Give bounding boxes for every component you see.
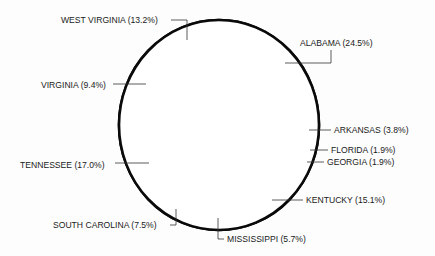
slice-label-florida: FLORIDA (1.9%) <box>331 145 396 155</box>
slice-label-virginia: VIRGINIA (9.4%) <box>41 80 106 90</box>
slice-label-arkansas: ARKANSAS (3.8%) <box>334 125 409 135</box>
slice-label-kentucky: KENTUCKY (15.1%) <box>306 195 385 205</box>
slice-label-south-carolina: SOUTH CAROLINA (7.5%) <box>53 220 157 230</box>
slice-label-georgia: GEORGIA (1.9%) <box>327 157 394 167</box>
slice-label-mississippi: MISSISSIPPI (5.7%) <box>227 234 306 244</box>
slice-label-alabama: ALABAMA (24.5%) <box>300 38 373 48</box>
slice-label-tennessee: TENNESSEE (17.0%) <box>20 160 105 170</box>
pie-chart: ALABAMA (24.5%) ARKANSAS (3.8%) FLORIDA … <box>0 0 435 256</box>
slice-label-west-virginia: WEST VIRGINIA (13.2%) <box>61 15 158 25</box>
pie-outline-stroke <box>119 20 319 230</box>
